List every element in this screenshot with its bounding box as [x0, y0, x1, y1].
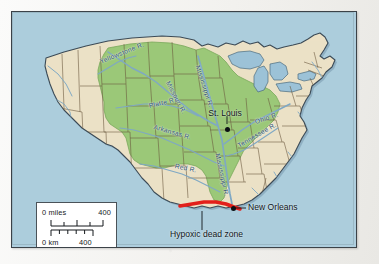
scale-miles-label-right: 400 [98, 208, 111, 217]
scale-km-label-left: 0 km [42, 238, 59, 247]
map-scale-bar: 0 miles 400 [36, 202, 117, 248]
map-frame: Yellowstone R. Missouri R. Mississippi R… [11, 11, 357, 248]
scale-miles-label-left: 0 miles [42, 208, 66, 217]
city-label-st-louis: St. Louis [208, 109, 242, 118]
st-louis-city-dot [225, 127, 230, 132]
annotation-hypoxic-dead-zone: Hypoxic dead zone [170, 230, 236, 240]
lake-erie [276, 82, 302, 92]
page-canvas: Yellowstone R. Missouri R. Mississippi R… [0, 0, 379, 264]
city-label-new-orleans: New Orleans [248, 203, 296, 212]
scale-ticks-miles [50, 219, 104, 227]
new-orleans-city-dot [231, 206, 236, 211]
scale-km-label-right: 400 [79, 238, 92, 247]
scale-ticks-km [50, 229, 94, 237]
